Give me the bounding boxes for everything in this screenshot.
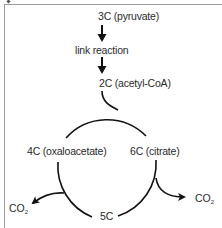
arrow-down-icon [98,25,107,42]
co2-output-left: CO2 [9,203,28,215]
co2-release-arrow-right [156,178,184,197]
node-5c: 5C [100,211,113,222]
cycle-arc-top [66,120,146,138]
co2-release-arrow-left [33,193,64,203]
node-acetyl-coa: 2C (acetyl-CoA) [99,78,171,89]
acetyl-coa-entry-line [102,91,118,110]
co2-subscript: 2 [211,199,214,205]
co2-base: CO [9,202,25,214]
node-citrate: 6C (citrate) [130,146,180,157]
cycle-diagram [0,0,222,228]
node-pyruvate: 3C (pyruvate) [98,11,159,22]
co2-base: CO [195,192,211,204]
arrow-down-icon [98,57,107,74]
co2-output-right: CO2 [195,193,214,205]
cycle-arc-left [58,162,92,217]
cycle-arc-right [118,160,156,216]
node-link-reaction: link reaction [75,45,128,56]
node-oxaloacetate: 4C (oxaloacetate) [27,146,106,157]
co2-subscript: 2 [25,209,28,215]
